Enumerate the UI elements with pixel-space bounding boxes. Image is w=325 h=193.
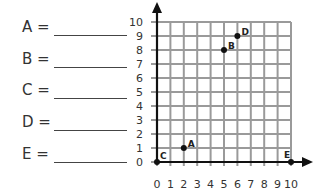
y-tick-label: 4 [136,100,143,113]
y-tick-label: 0 [136,156,143,169]
x-tick-label: 3 [194,178,201,191]
y-tick-label: 3 [136,114,143,127]
x-tick-label: 8 [261,178,268,191]
y-tick-label: 9 [136,30,143,43]
point-label-e: E [284,150,290,160]
point-label-a: A [188,139,195,149]
x-tick-label: 5 [221,178,228,191]
y-tick-label: 1 [136,142,143,155]
x-tick-label: 6 [234,178,241,191]
x-tick-label: 4 [207,178,214,191]
x-tick-label: 7 [247,178,254,191]
grid-lines [151,22,291,166]
tick-labels: 012345678910012345678910 [129,16,298,191]
x-tick-label: 0 [154,178,161,191]
y-tick-label: 2 [136,128,143,141]
x-tick-label: 10 [284,178,298,191]
y-axis-arrow-icon [152,2,162,13]
point-label-b: B [228,41,235,51]
point-d [234,33,240,39]
y-tick-label: 8 [136,44,143,57]
y-axis [152,2,162,163]
point-b [221,47,227,53]
x-tick-label: 1 [167,178,174,191]
y-tick-label: 7 [136,58,143,71]
coordinate-grid: 012345678910012345678910 ABCDE [0,0,325,193]
y-tick-label: 5 [136,86,143,99]
point-a [181,145,187,151]
point-label-c: C [160,151,167,161]
y-tick-label: 10 [129,16,143,29]
x-axis-arrow-icon [302,157,313,167]
point-label-d: D [241,27,248,37]
x-tick-label: 2 [180,178,187,191]
y-tick-label: 6 [136,72,143,85]
x-tick-label: 9 [274,178,281,191]
